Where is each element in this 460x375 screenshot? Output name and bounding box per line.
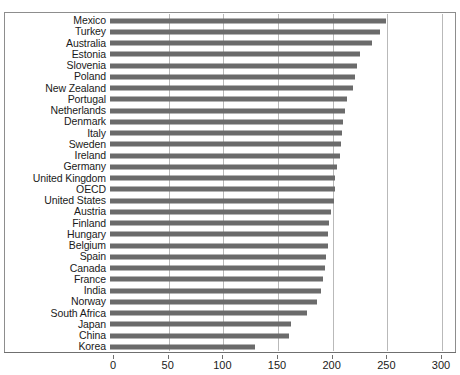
bar-estonia [110, 52, 360, 57]
bar-track [110, 71, 455, 82]
bar-track [110, 105, 455, 116]
category-label-korea: Korea [5, 341, 110, 352]
bar-turkey [110, 29, 380, 34]
bar-track [110, 15, 455, 26]
bar-track [110, 206, 455, 217]
bar-track [110, 319, 455, 330]
bar-spain [110, 254, 326, 259]
category-label-finland: Finland [5, 218, 110, 229]
category-label-spain: Spain [5, 251, 110, 262]
bar-poland [110, 74, 355, 79]
bar-track [110, 173, 455, 184]
category-label-norway: Norway [5, 296, 110, 307]
bar-row: United States [5, 195, 455, 206]
bar-australia [110, 41, 372, 46]
bar-track [110, 330, 455, 341]
bar-track [110, 229, 455, 240]
bar-hungary [110, 232, 328, 237]
bar-row: Germany [5, 161, 455, 172]
bar-korea [110, 344, 255, 349]
bar-united-states [110, 198, 334, 203]
bar-track [110, 308, 455, 319]
bar-row: Poland [5, 71, 455, 82]
bar-row: Sweden [5, 139, 455, 150]
bar-row: Mexico [5, 15, 455, 26]
bar-track [110, 195, 455, 206]
tick-label-100: 100 [213, 359, 231, 371]
category-label-denmark: Denmark [5, 116, 110, 127]
tick-label-50: 50 [162, 359, 174, 371]
category-label-south-africa: South Africa [5, 308, 110, 319]
bar-row: France [5, 274, 455, 285]
bar-row: Norway [5, 296, 455, 307]
bar-track [110, 139, 455, 150]
bar-ireland [110, 153, 340, 158]
tick-label-150: 150 [268, 359, 286, 371]
bar-united-kingdom [110, 176, 335, 181]
bar-track [110, 38, 455, 49]
bar-row: Belgium [5, 240, 455, 251]
bar-row: Spain [5, 251, 455, 262]
bar-finland [110, 221, 329, 226]
bar-track [110, 60, 455, 71]
tick-label-0: 0 [110, 359, 116, 371]
bar-track [110, 49, 455, 60]
bar-row: Canada [5, 263, 455, 274]
category-label-new-zealand: New Zealand [5, 83, 110, 94]
bar-track [110, 274, 455, 285]
plot-area: MexicoTurkeyAustraliaEstoniaSloveniaPola… [5, 13, 455, 352]
x-axis-line [4, 352, 456, 353]
bar-row: United Kingdom [5, 173, 455, 184]
bar-row: South Africa [5, 308, 455, 319]
bar-track [110, 341, 455, 352]
bar-belgium [110, 243, 328, 248]
category-label-turkey: Turkey [5, 26, 110, 37]
category-label-united-kingdom: United Kingdom [5, 173, 110, 184]
bar-row: Austria [5, 206, 455, 217]
bar-canada [110, 266, 325, 271]
cropped-title-strip [0, 0, 460, 11]
bar-track [110, 184, 455, 195]
bar-track [110, 161, 455, 172]
bar-sweden [110, 142, 341, 147]
category-label-austria: Austria [5, 206, 110, 217]
bar-germany [110, 164, 337, 169]
bar-row: Slovenia [5, 60, 455, 71]
x-axis-tick-labels: 050100150200250300 [0, 355, 460, 375]
bar-denmark [110, 119, 343, 124]
bar-rows: MexicoTurkeyAustraliaEstoniaSloveniaPola… [5, 15, 455, 353]
bar-austria [110, 209, 331, 214]
bar-norway [110, 299, 317, 304]
bar-china [110, 333, 289, 338]
bar-track [110, 285, 455, 296]
bar-mexico [110, 18, 386, 23]
bar-japan [110, 322, 291, 327]
bar-track [110, 94, 455, 105]
bar-track [110, 150, 455, 161]
bar-portugal [110, 97, 347, 102]
bar-slovenia [110, 63, 357, 68]
category-label-poland: Poland [5, 71, 110, 82]
bar-new-zealand [110, 86, 353, 91]
bar-row: Denmark [5, 116, 455, 127]
bar-track [110, 128, 455, 139]
bar-row: Turkey [5, 26, 455, 37]
category-label-canada: Canada [5, 263, 110, 274]
bar-track [110, 251, 455, 262]
bar-india [110, 288, 321, 293]
bar-track [110, 240, 455, 251]
category-label-australia: Australia [5, 38, 110, 49]
bar-row: Japan [5, 319, 455, 330]
bar-italy [110, 131, 342, 136]
bar-track [110, 83, 455, 94]
chart-frame: MexicoTurkeyAustraliaEstoniaSloveniaPola… [4, 12, 456, 353]
category-label-italy: Italy [5, 128, 110, 139]
tick-label-300: 300 [432, 359, 450, 371]
bar-track [110, 116, 455, 127]
tick-label-200: 200 [322, 359, 340, 371]
bar-south-africa [110, 311, 307, 316]
bar-row: China [5, 330, 455, 341]
bar-row: Korea [5, 341, 455, 352]
tick-label-250: 250 [377, 359, 395, 371]
bar-netherlands [110, 108, 345, 113]
